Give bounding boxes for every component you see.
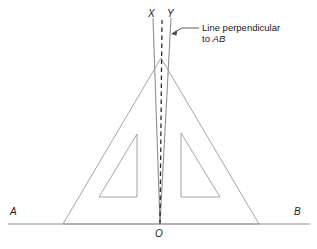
annotation-line-2: to AB xyxy=(202,33,280,44)
leader-arrowhead-icon xyxy=(171,31,177,36)
label-point-b: B xyxy=(294,206,301,218)
ray-OX-line xyxy=(153,18,160,224)
inner-triangle-right xyxy=(181,133,220,197)
label-point-o: O xyxy=(155,228,163,240)
geometry-diagram: X Y A B O Line perpendicular to AB xyxy=(0,0,317,249)
annotation-line-1: Line perpendicular xyxy=(202,22,280,33)
label-point-x: X xyxy=(148,8,155,20)
annotation-line-2-segment: AB xyxy=(213,33,226,44)
annotation-text: Line perpendicular to AB xyxy=(202,22,280,44)
label-point-y: Y xyxy=(167,8,174,20)
annotation-line-2-prefix: to xyxy=(202,33,213,44)
inner-triangle-left xyxy=(99,134,137,197)
label-point-a: A xyxy=(10,206,17,218)
ray-OY-line xyxy=(160,18,171,224)
